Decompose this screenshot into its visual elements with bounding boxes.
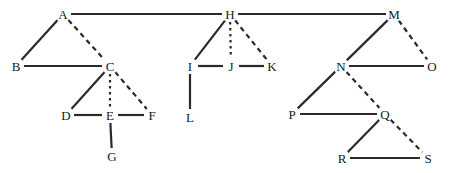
node-g: G [106, 150, 117, 163]
node-d: D [60, 109, 71, 122]
node-f: F [147, 109, 156, 122]
node-b: B [11, 60, 22, 73]
edge-a-c [68, 20, 104, 60]
edge-q-r [348, 120, 380, 153]
node-l: L [185, 111, 195, 124]
node-n: N [335, 60, 346, 73]
edge-e-g [110, 123, 111, 148]
edge-q-s [391, 120, 423, 153]
node-k: K [266, 60, 277, 73]
edge-m-o [399, 20, 428, 59]
edge-n-q [346, 72, 379, 108]
node-o: O [426, 60, 437, 73]
node-e: E [105, 109, 115, 122]
edge-m-n [347, 20, 389, 61]
edge-h-i [195, 20, 225, 59]
edges-group [21, 14, 427, 158]
edge-h-k [235, 20, 267, 60]
node-r: R [337, 152, 348, 165]
edge-c-d [71, 72, 104, 109]
edge-c-f [115, 72, 147, 109]
node-m: M [387, 8, 401, 21]
node-p: P [287, 108, 296, 121]
edge-a-b [21, 20, 57, 60]
node-h: H [224, 8, 235, 21]
edge-n-p [298, 72, 336, 109]
node-a: A [57, 8, 68, 21]
node-s: S [423, 152, 432, 165]
node-i: I [187, 60, 193, 73]
node-c: C [105, 60, 116, 73]
graph-diagram: ABCDEFGHIJKLMNOPQRS [0, 0, 449, 173]
edge-h-j [230, 22, 231, 58]
node-j: J [227, 60, 234, 73]
graph-edges-layer [0, 0, 449, 173]
node-q: Q [379, 108, 390, 121]
